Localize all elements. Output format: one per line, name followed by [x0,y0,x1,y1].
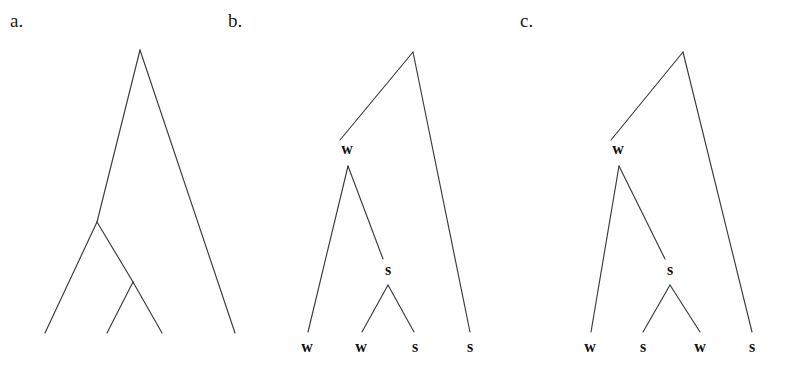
branch-c-node-w-to-leaf-1 [591,166,619,332]
panel-label-c: c. [520,10,533,31]
panel-a: a. [10,10,235,333]
branch-a-internal-lower-to-leaf-3 [133,282,162,333]
branch-c-root-to-leaf-4 [683,52,752,332]
tree-diagram-canvas: a.wswwssb.wswswsc. [0,0,792,379]
leaf-label-b-leaf-1: w [301,338,313,355]
leaf-label-c-leaf-3: w [694,338,706,355]
branch-b-root-to-leaf-4 [413,52,470,332]
node-label-b-node-w: w [341,140,353,157]
leaf-label-b-leaf-2: w [355,338,367,355]
branch-b-root-to-node-w [340,52,413,140]
leaf-label-c-leaf-4: s [749,338,755,355]
node-label-b-node-s: s [385,261,391,278]
panel-b: wswwssb. [228,10,473,355]
branch-b-node-w-to-node-s [348,166,383,259]
branch-c-node-w-to-node-s [619,166,665,259]
panel-c: wswswsc. [520,10,755,355]
leaf-label-c-leaf-1: w [584,338,596,355]
panel-label-b: b. [228,10,242,31]
branch-a-root-to-internal-left [97,50,140,222]
phylogenetic-tree-figure: a.wswwssb.wswswsc. [0,0,792,379]
branch-b-node-s-to-leaf-3 [388,285,414,332]
panel-label-a: a. [10,10,23,31]
leaf-label-b-leaf-3: s [412,338,418,355]
leaf-label-c-leaf-2: s [640,338,646,355]
branch-c-node-s-to-leaf-2 [643,285,670,332]
branch-a-internal-lower-to-leaf-2 [107,282,133,333]
leaf-label-b-leaf-4: s [467,338,473,355]
branch-b-node-s-to-leaf-2 [362,285,388,332]
node-label-c-node-w: w [612,140,624,157]
branch-b-node-w-to-leaf-1 [308,166,348,332]
branch-a-internal-left-to-internal-lower [97,222,133,282]
node-label-c-node-s: s [667,261,673,278]
branch-a-internal-left-to-leaf-1 [45,222,97,333]
branch-a-root-to-leaf-4 [140,50,235,333]
branch-c-root-to-node-w [611,52,683,140]
branch-c-node-s-to-leaf-3 [670,285,700,332]
